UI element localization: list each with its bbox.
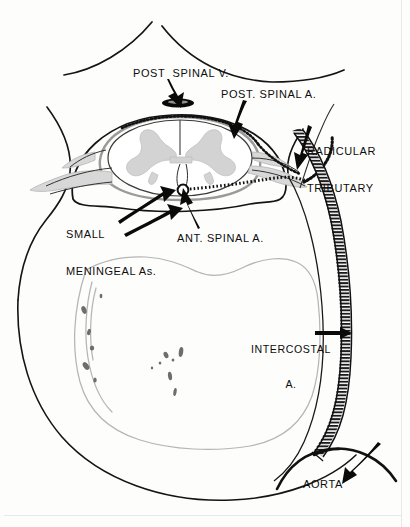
- anatomical-figure: POST SPINAL V. POST. SPINAL A. RADICULAR…: [0, 0, 410, 527]
- vertebral-body-stipple: [80, 294, 183, 396]
- vertebral-body: [75, 257, 320, 449]
- aorta: [277, 449, 396, 489]
- spinous-process: [64, 22, 344, 82]
- diagram-canvas: [0, 0, 410, 527]
